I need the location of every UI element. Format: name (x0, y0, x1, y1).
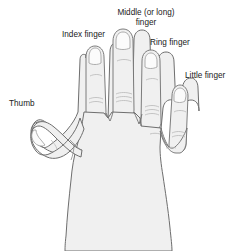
hand-outline-group (31, 29, 199, 251)
index-fingernail (89, 48, 101, 65)
label-middle-finger-line2: finger (136, 18, 157, 27)
label-little-finger: Little finger (185, 71, 225, 81)
thumb-fingernail (32, 130, 45, 146)
ring-fingernail (145, 53, 157, 69)
label-thumb: Thumb (9, 99, 35, 109)
label-middle-finger: Middle (or long) finger (104, 8, 188, 28)
label-index-finger: Index finger (62, 30, 105, 40)
hand-illustration (0, 0, 239, 251)
little-fingernail (174, 88, 186, 103)
label-middle-finger-line1: Middle (or long) (117, 8, 174, 17)
hand-anatomy-figure: Thumb Index finger Middle (or long) fing… (0, 0, 239, 251)
label-ring-finger: Ring finger (150, 38, 190, 48)
middle-fingernail (116, 32, 130, 50)
